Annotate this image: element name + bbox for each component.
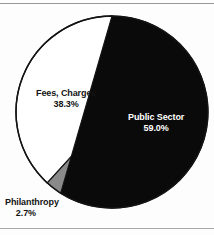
pie-label-public-sector-name: Public Sector bbox=[128, 112, 184, 122]
bottom-divider-rule bbox=[0, 228, 214, 229]
pie-label-philanthropy-value: 2.7% bbox=[5, 208, 59, 219]
pie-label-fees-charges: Fees, Charges 38.3% bbox=[36, 88, 96, 110]
pie-label-philanthropy-name: Philanthropy bbox=[5, 197, 59, 207]
pie-label-fees-charges-name: Fees, Charges bbox=[36, 88, 96, 98]
pie-label-fees-charges-value: 38.3% bbox=[36, 99, 96, 110]
pie-label-public-sector-value: 59.0% bbox=[128, 123, 184, 134]
pie-chart-figure: Public Sector 59.0% Fees, Charges 38.3% … bbox=[0, 0, 214, 235]
pie-label-philanthropy: Philanthropy 2.7% bbox=[5, 197, 59, 219]
pie-label-public-sector: Public Sector 59.0% bbox=[128, 112, 184, 134]
